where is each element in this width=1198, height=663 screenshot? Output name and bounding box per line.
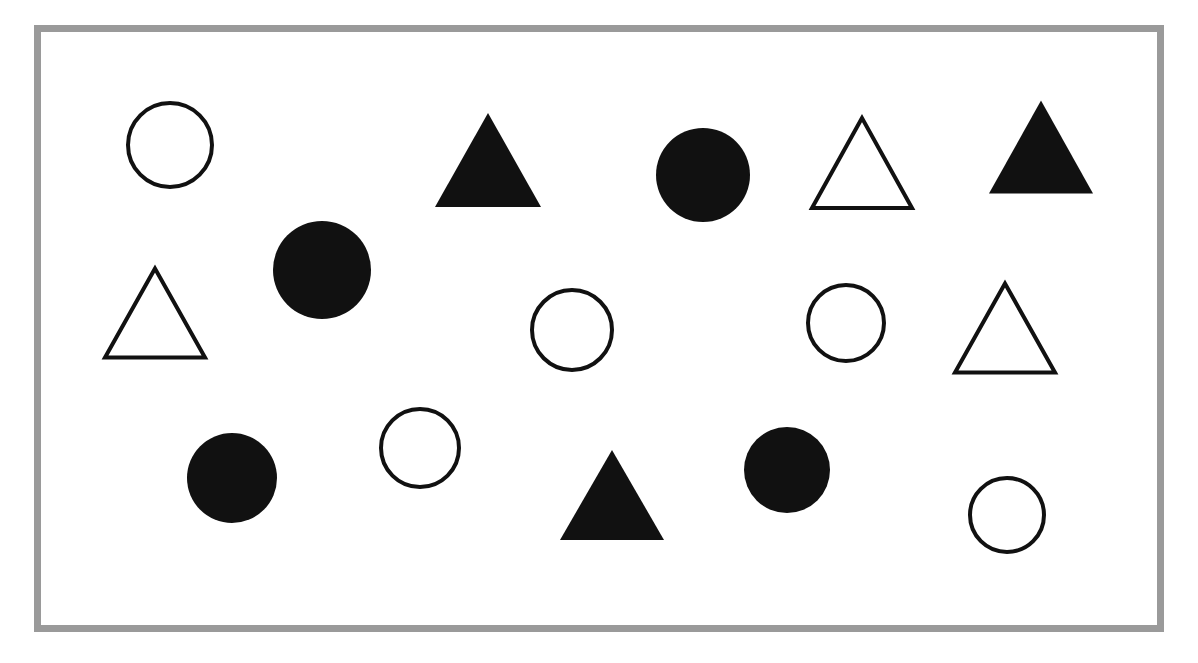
circle-filled <box>187 433 277 523</box>
circle-filled <box>273 221 371 319</box>
triangle-filled <box>435 113 541 207</box>
circle-filled <box>744 427 830 513</box>
triangle-outline <box>812 118 912 208</box>
triangle-outline <box>105 269 205 358</box>
circle-outline <box>532 290 612 370</box>
circle-outline <box>381 409 459 487</box>
triangle-filled <box>989 101 1093 194</box>
shapes-figure <box>0 0 1198 663</box>
triangle-filled <box>560 450 664 540</box>
triangle-outline <box>955 284 1055 373</box>
circle-outline <box>808 285 884 361</box>
circle-outline <box>128 103 212 187</box>
shapes-layer <box>0 0 1198 663</box>
circle-outline <box>970 478 1044 552</box>
circle-filled <box>656 128 750 222</box>
